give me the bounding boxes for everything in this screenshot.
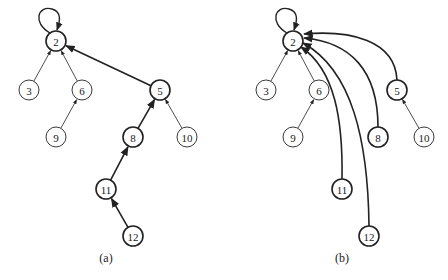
node-label: 5 — [157, 85, 163, 97]
edge-11-to-8 — [111, 147, 128, 180]
node-12: 12 — [123, 226, 143, 246]
edge-9-to-6 — [298, 100, 314, 129]
node-label: 9 — [53, 132, 59, 144]
node-10: 10 — [414, 127, 434, 147]
node-label: 10 — [419, 132, 431, 144]
node-label: 9 — [290, 132, 296, 144]
node-5: 5 — [150, 80, 170, 100]
edge-10-to-5 — [165, 100, 182, 129]
node-6: 6 — [309, 80, 329, 100]
self-loop-edge-2 — [39, 8, 60, 33]
node-2: 2 — [283, 31, 303, 51]
edge-3-to-2 — [271, 51, 288, 82]
node-6: 6 — [72, 80, 92, 100]
node-2: 2 — [46, 31, 66, 51]
node-label: 12 — [364, 231, 375, 243]
edge-12-to-11 — [111, 199, 128, 228]
node-9: 9 — [46, 127, 66, 147]
node-label: 3 — [263, 85, 269, 97]
node-label: 8 — [375, 132, 381, 144]
edge-8-to-5 — [138, 100, 155, 129]
node-label: 11 — [101, 184, 112, 196]
panel-caption: (a) — [99, 251, 112, 265]
panel-a-before-path-compression: 236598101112(a) — [19, 8, 197, 265]
node-label: 2 — [53, 36, 59, 48]
node-label: 2 — [290, 36, 296, 48]
node-10: 10 — [177, 127, 197, 147]
node-12: 12 — [359, 226, 379, 246]
self-loop-edge-2 — [276, 8, 297, 33]
node-5: 5 — [387, 80, 407, 100]
node-label: 6 — [79, 85, 85, 97]
edge-10-to-5 — [402, 100, 419, 129]
node-3: 3 — [19, 80, 39, 100]
edge-9-to-6 — [61, 100, 77, 129]
node-label: 3 — [26, 85, 32, 97]
edge-3-to-2 — [34, 51, 51, 82]
node-8: 8 — [123, 127, 143, 147]
edge-5-to-2 — [66, 46, 151, 86]
node-9: 9 — [283, 127, 303, 147]
panel-caption: (b) — [335, 251, 349, 265]
node-3: 3 — [256, 80, 276, 100]
panel-b-after-path-compression: 236598101112(b) — [256, 8, 434, 265]
node-label: 5 — [394, 85, 400, 97]
node-label: 11 — [337, 184, 348, 196]
node-8: 8 — [368, 127, 388, 147]
union-find-diagram: 236598101112(a) 236598101112(b) — [0, 0, 448, 280]
node-label: 10 — [182, 132, 194, 144]
edge-6-to-2 — [61, 51, 77, 81]
node-label: 12 — [128, 231, 139, 243]
edge-12-to-2 — [303, 43, 369, 226]
edge-11-to-2 — [301, 47, 342, 179]
node-11: 11 — [96, 179, 116, 199]
node-label: 8 — [130, 132, 136, 144]
node-11: 11 — [332, 179, 352, 199]
node-label: 6 — [316, 85, 322, 97]
